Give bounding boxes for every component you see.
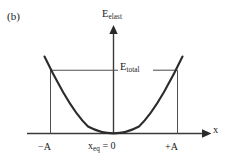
elastic-energy-diagram: (b) Eelast Etotal x −A xeq = 0 +A: [0, 0, 227, 162]
diagram-canvas: [0, 0, 227, 162]
y-axis-label: Eelast: [102, 9, 122, 20]
x-axis-label: x: [213, 125, 218, 136]
y-axis-arrowhead: [109, 25, 117, 34]
total-energy-subscript: total: [126, 66, 139, 74]
y-axis-subscript: elast: [108, 13, 122, 21]
x-tick-label-equilibrium: xeq = 0: [88, 141, 116, 151]
panel-label: (b): [7, 11, 20, 22]
equilibrium-subscript: eq: [93, 145, 100, 153]
x-tick-label-positive-amplitude: +A: [165, 142, 178, 152]
x-tick-label-negative-amplitude: −A: [38, 142, 51, 152]
x-axis-arrowhead: [202, 129, 212, 138]
equilibrium-value: = 0: [100, 140, 116, 151]
total-energy-label: Etotal: [120, 62, 140, 73]
